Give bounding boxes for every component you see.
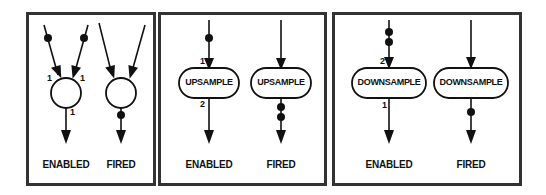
arrowhead-icon (204, 130, 214, 144)
rate-label: 1 (200, 56, 205, 66)
caption-fired: FIRED (431, 159, 511, 170)
caption-enabled: ENABLED (349, 159, 429, 170)
rate-label: 1 (47, 73, 52, 83)
caption-fired: FIRED (81, 159, 161, 170)
arrowhead-icon (384, 130, 394, 144)
arrowhead-icon (116, 130, 126, 144)
arrowhead-icon (466, 130, 476, 144)
arrowhead-icon (276, 130, 286, 144)
rate-label: 1 (70, 107, 75, 117)
upsample-node-label: UPSAMPLE (251, 77, 311, 87)
rate-label: 2 (200, 99, 205, 109)
token-icon (277, 103, 285, 111)
arrowhead-icon (105, 65, 118, 80)
token-icon (385, 28, 393, 36)
sdf-fired-group (99, 23, 145, 144)
caption-enabled: ENABLED (169, 159, 249, 170)
arrowhead-icon (61, 130, 71, 144)
token-icon (44, 34, 52, 42)
token-icon (385, 38, 393, 46)
token-icon (80, 34, 88, 42)
token-icon (117, 111, 125, 119)
token-icon (205, 34, 213, 42)
downsample-node-label: DOWNSAMPLE (434, 77, 508, 87)
caption-fired: FIRED (241, 159, 321, 170)
actor-node-circle (106, 78, 136, 108)
token-icon (467, 108, 475, 116)
rate-label: 1 (80, 73, 85, 83)
downsample-node-label: DOWNSAMPLE (352, 77, 426, 87)
actor-node-circle (51, 78, 81, 108)
rate-label: 1 (382, 100, 387, 110)
arrowhead-icon (125, 65, 138, 80)
rate-label: 2 (380, 56, 385, 66)
sdf-enabled-group (44, 25, 88, 144)
token-icon (277, 113, 285, 121)
upsample-node-label: UPSAMPLE (179, 77, 239, 87)
